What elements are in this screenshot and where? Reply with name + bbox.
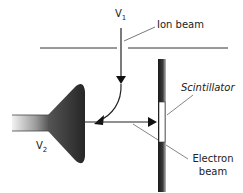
ion-beam-label: Ion beam [157,19,204,32]
ion-impact-arrowhead-icon [94,115,104,125]
v2-label: V2 [36,140,47,155]
scintillator-leader [167,95,193,115]
ion-detector-diagram: V1 Ion beam Scintillator V2 Electron bea… [0,0,243,193]
scintillator-label: Scintillator [181,82,235,95]
ion-beam-leader [124,27,155,41]
v2-electrode [12,84,85,163]
detector-bar [158,59,166,192]
ion-beam-path [94,28,126,125]
electron-beam-arrowhead-icon [148,117,157,127]
electron-beam-path [85,117,157,127]
electron-beam-label-line1: Electron [190,153,236,166]
v1-label: V1 [115,8,126,23]
electron-beam-label-line2: beam [190,166,236,179]
scintillator [159,102,165,142]
ion-beam-arrowhead-icon [116,76,126,84]
electron-beam-label: Electron beam [190,153,236,178]
